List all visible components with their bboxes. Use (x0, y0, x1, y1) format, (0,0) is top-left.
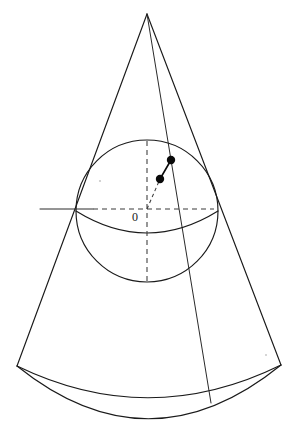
marked-point-inner (156, 175, 164, 183)
scan-speck-left (99, 180, 101, 182)
geometry-diagram: 0 (0, 0, 301, 431)
center-to-point-dashed-radius (147, 179, 160, 209)
cone-left-slant-edge (17, 14, 147, 366)
cone-right-slant-edge (147, 14, 281, 365)
geometry-canvas: 0 (0, 0, 301, 431)
scan-speck-right (265, 354, 267, 356)
origin-label: 0 (132, 210, 138, 224)
cone-base-front-arc (17, 365, 281, 419)
marked-point-outer (167, 156, 175, 164)
